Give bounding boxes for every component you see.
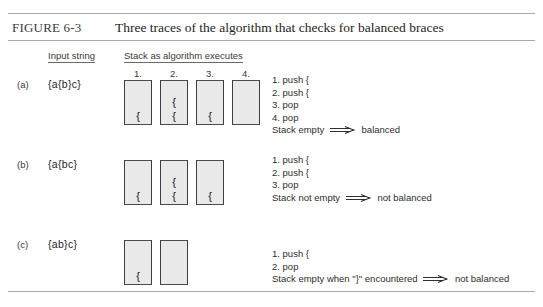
trace-steps: 1. push { 2. pop Stack empty when "}" en… <box>272 248 509 286</box>
figure-label: FIGURE 6-3 <box>12 20 82 36</box>
stack-diagram-list: { { { { <box>124 80 268 125</box>
stack-box: { <box>196 80 224 125</box>
stack-box: { { <box>160 160 188 205</box>
figure-title: Three traces of the algorithm that check… <box>115 20 444 36</box>
conclusion-condition: Stack empty <box>272 124 324 135</box>
conclusion-condition: Stack not empty <box>272 192 340 203</box>
stack-item: { <box>208 189 212 203</box>
stack-box: { <box>124 160 152 205</box>
implies-arrow-icon <box>346 194 372 202</box>
stack-item: { <box>136 109 140 123</box>
stack-item: { <box>172 189 176 203</box>
implies-arrow-icon <box>423 275 449 283</box>
stack-item: { <box>172 109 176 123</box>
stack-box: { <box>124 240 152 285</box>
trace-step: 1. push { <box>272 248 509 261</box>
trace-step: 1. push { <box>272 154 432 167</box>
step-number: 1. <box>124 68 152 79</box>
trace-step: 2. push { <box>272 87 400 100</box>
stack-item: { <box>172 95 176 109</box>
figure-bottom-rule <box>8 291 535 292</box>
stack-item: { <box>136 269 140 283</box>
trace-conclusion: Stack empty when "}" encountered not bal… <box>272 273 509 286</box>
step-number-list: 1. 2. 3. 4. <box>124 68 268 79</box>
conclusion-result: not balanced <box>377 192 431 203</box>
step-number: 3. <box>196 68 224 79</box>
column-header-input-string: Input string <box>48 50 95 63</box>
row-letter: (c) <box>17 239 28 250</box>
trace-step: 2. push { <box>272 167 432 180</box>
conclusion-result: balanced <box>362 124 401 135</box>
row-input-string: {a{b}c} <box>48 78 81 90</box>
trace-step: 4. pop <box>272 112 400 125</box>
trace-step: 2. pop <box>272 261 509 274</box>
stack-box <box>160 240 188 285</box>
conclusion-condition: Stack empty when "}" encountered <box>272 273 418 284</box>
stack-box <box>232 80 260 125</box>
trace-steps: 1. push { 2. push { 3. pop Stack not emp… <box>272 154 432 204</box>
stack-box: { <box>196 160 224 205</box>
trace-steps: 1. push { 2. push { 3. pop 4. pop Stack … <box>272 74 400 137</box>
stack-item: { <box>172 175 176 189</box>
implies-arrow-icon <box>330 126 356 134</box>
stack-box: { { <box>160 80 188 125</box>
row-input-string: {ab}c} <box>48 238 77 250</box>
stack-item: { <box>136 189 140 203</box>
trace-step: 3. pop <box>272 179 432 192</box>
step-number: 4. <box>232 68 260 79</box>
stack-item: { <box>208 109 212 123</box>
trace-conclusion: Stack empty balanced <box>272 124 400 137</box>
row-letter: (b) <box>17 159 29 170</box>
figure-top-rule <box>8 13 535 14</box>
step-number: 2. <box>160 68 188 79</box>
stack-diagram-list: { { { { <box>124 160 232 205</box>
trace-step: 1. push { <box>272 74 400 87</box>
conclusion-result: not balanced <box>455 273 509 284</box>
column-header-stack: Stack as algorithm executes <box>124 50 243 63</box>
trace-step: 3. pop <box>272 99 400 112</box>
stack-diagram-list: { <box>124 240 196 285</box>
figure-title-rule <box>8 40 535 41</box>
row-letter: (a) <box>17 79 29 90</box>
trace-conclusion: Stack not empty not balanced <box>272 192 432 205</box>
row-input-string: {a{bc} <box>48 158 77 170</box>
stack-box: { <box>124 80 152 125</box>
